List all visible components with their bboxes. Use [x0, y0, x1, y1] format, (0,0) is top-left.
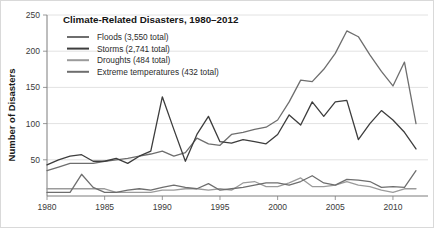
x-tick-label-1985: 1985 — [95, 202, 114, 212]
y-tick-label-50: 50 — [31, 155, 41, 165]
chart-plot-area: 50100150200250 1980198519901995200020052… — [1, 1, 434, 228]
x-tick-label-1980: 1980 — [38, 202, 57, 212]
chart-title: Climate-Related Disasters, 1980–2012 — [63, 14, 239, 25]
x-tick-label-2005: 2005 — [326, 202, 345, 212]
y-axis-title: Number of Disasters — [6, 69, 17, 162]
x-tick-label-2010: 2010 — [383, 202, 402, 212]
legend-label-storms: Storms (2,741 total) — [97, 44, 170, 54]
climate-disasters-chart: 50100150200250 1980198519901995200020052… — [0, 0, 434, 228]
x-axis-tick-labels: 1980198519901995200020052010 — [38, 202, 403, 212]
x-tick-label-2000: 2000 — [268, 202, 287, 212]
x-tick-label-1990: 1990 — [153, 202, 172, 212]
y-tick-label-250: 250 — [26, 10, 40, 20]
y-tick-label-150: 150 — [26, 82, 40, 92]
chart-legend: Floods (3,550 total)Storms (2,741 total)… — [67, 32, 219, 77]
legend-label-extreme-temperatures: Extreme temperatures (432 total) — [97, 67, 219, 77]
y-tick-label-200: 200 — [26, 46, 40, 56]
axis-lines — [47, 15, 428, 196]
y-axis-tick-labels: 50100150200250 — [26, 10, 40, 165]
legend-label-droughts: Droughts (484 total) — [97, 55, 171, 65]
x-tick-label-1995: 1995 — [211, 202, 230, 212]
legend-label-floods: Floods (3,550 total) — [97, 32, 169, 42]
y-tick-label-100: 100 — [26, 119, 40, 129]
series-line-storms — [47, 97, 416, 165]
